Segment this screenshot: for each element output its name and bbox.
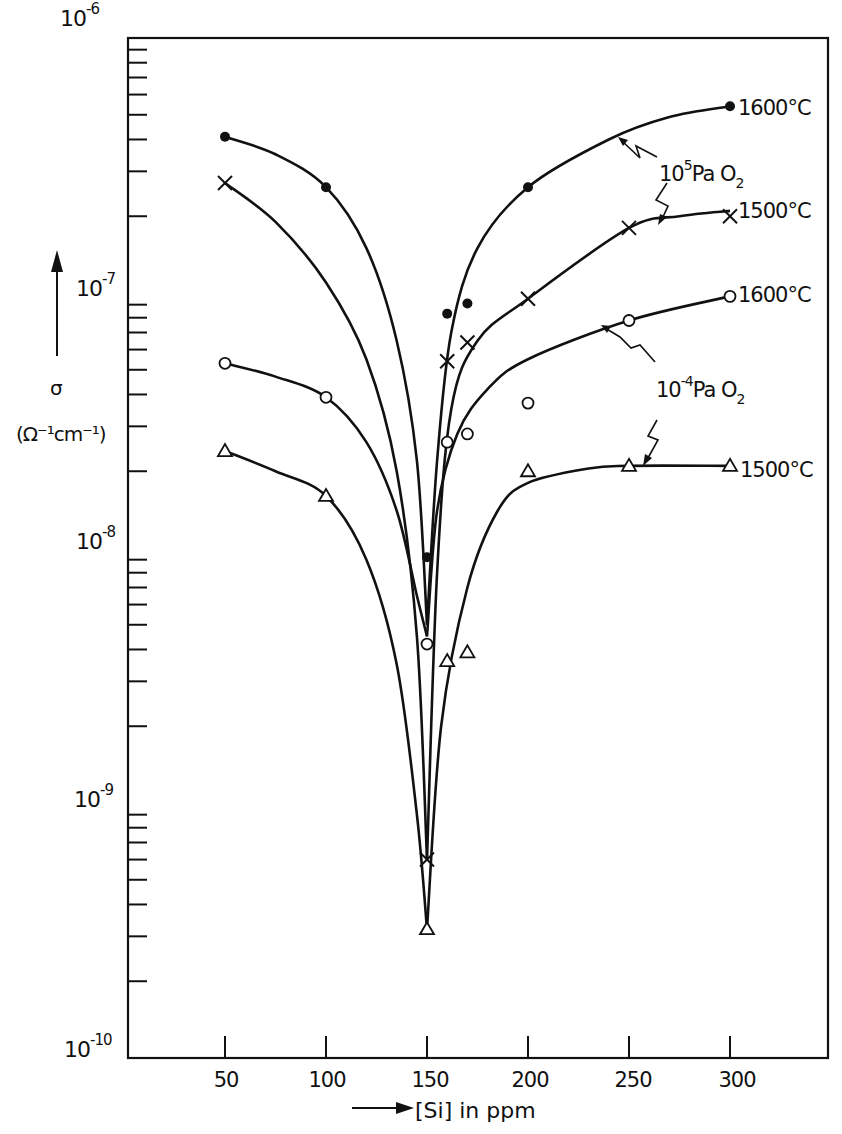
annotation-high-o2: 105Pa O2 bbox=[659, 160, 743, 189]
curve-right-open-triangle bbox=[427, 466, 730, 930]
x-tick-label-300: 300 bbox=[718, 1068, 755, 1092]
filled-circle-marker-icon bbox=[462, 298, 472, 308]
open-circle-marker-icon bbox=[442, 437, 453, 448]
squiggle-arrow-icon bbox=[601, 325, 655, 362]
y-tick-label-1e-10: 10-10 bbox=[64, 1035, 112, 1062]
y-tick-label-1e-6: 10-6 bbox=[60, 4, 99, 31]
annotation-arrows bbox=[601, 137, 668, 466]
y-axis-symbol: σ bbox=[50, 376, 63, 400]
x-tick-label-250: 250 bbox=[614, 1068, 651, 1092]
y-tick-label-1e-7: 10-7 bbox=[76, 274, 115, 301]
filled-circle-marker-icon bbox=[442, 309, 452, 319]
annotation-low-o2: 10-4Pa O2 bbox=[656, 376, 744, 405]
plot-frame bbox=[128, 38, 828, 1058]
x-axis-title: [Si] in ppm bbox=[415, 1098, 536, 1123]
x-tick-label-200: 200 bbox=[511, 1068, 548, 1092]
series-label-1500-high-o2: 1500°C bbox=[738, 199, 811, 223]
cross-marker-icon bbox=[218, 176, 232, 190]
x-tick-label-100: 100 bbox=[308, 1068, 345, 1092]
open-circle-marker-icon bbox=[422, 639, 433, 650]
curve-left-cross bbox=[225, 183, 427, 860]
open-circle-marker-icon bbox=[523, 398, 534, 409]
y-axis-arrow-icon bbox=[51, 250, 63, 272]
x-tick-label-50: 50 bbox=[214, 1068, 239, 1092]
cross-marker-icon bbox=[521, 292, 535, 306]
curve-left-filled-circle bbox=[225, 137, 427, 625]
y-tick-label-1e-9: 10-9 bbox=[74, 785, 113, 812]
open-triangle-marker-icon bbox=[521, 464, 535, 476]
filled-circle-marker-icon bbox=[725, 101, 735, 111]
filled-circle-marker-icon bbox=[523, 182, 533, 192]
filled-circle-marker-icon bbox=[422, 552, 432, 562]
x-tick-label-150: 150 bbox=[411, 1068, 448, 1092]
curve-left-open-triangle bbox=[225, 451, 427, 929]
series-markers bbox=[218, 101, 737, 934]
y-tick-label-1e-8: 10-8 bbox=[76, 527, 115, 554]
filled-circle-marker-icon bbox=[321, 182, 331, 192]
curve-right-cross bbox=[427, 211, 730, 860]
open-circle-marker-icon bbox=[462, 428, 473, 439]
open-triangle-marker-icon bbox=[218, 444, 232, 456]
open-circle-marker-icon bbox=[624, 315, 635, 326]
open-triangle-marker-icon bbox=[460, 645, 474, 657]
cross-marker-icon bbox=[622, 221, 636, 235]
series-label-1600-high-o2: 1600°C bbox=[738, 96, 811, 120]
plot-axes bbox=[51, 38, 828, 1114]
open-circle-marker-icon bbox=[220, 358, 231, 369]
open-triangle-marker-icon bbox=[420, 922, 434, 934]
squiggle-arrow-icon bbox=[643, 420, 658, 466]
series-label-1600-low-o2: 1600°C bbox=[738, 283, 811, 307]
series-label-1500-low-o2: 1500°C bbox=[740, 458, 813, 482]
cross-marker-icon bbox=[460, 335, 474, 349]
squiggle-arrow-icon bbox=[618, 137, 657, 158]
open-circle-marker-icon bbox=[321, 392, 332, 403]
filled-circle-marker-icon bbox=[220, 132, 230, 142]
series-curves bbox=[225, 106, 730, 929]
y-axis-unit: (Ω⁻¹cm⁻¹) bbox=[16, 422, 106, 446]
open-circle-marker-icon bbox=[725, 291, 736, 302]
x-axis-arrow-icon bbox=[396, 1102, 414, 1114]
